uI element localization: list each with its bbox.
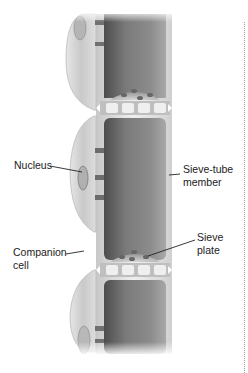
nucleus-label: Nucleus bbox=[14, 159, 52, 172]
companion-cell-leader bbox=[66, 251, 84, 254]
companion-cells bbox=[66, 14, 96, 354]
nucleus-middle bbox=[78, 166, 88, 190]
sieve-tube-member-middle bbox=[104, 118, 166, 260]
sieve-tube-column bbox=[96, 14, 172, 354]
sieve-tube-member-label: Sieve-tube member bbox=[183, 163, 233, 189]
companion-cell-label: Companion cell bbox=[13, 246, 67, 272]
sieve-plate-label: Sieve plate bbox=[197, 231, 223, 257]
sieve-tube-member-upper bbox=[104, 14, 166, 98]
dotted-divider bbox=[244, 22, 245, 373]
